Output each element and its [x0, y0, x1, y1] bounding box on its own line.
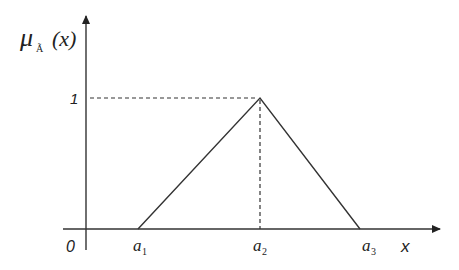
mu-symbol: μ — [19, 23, 33, 52]
x-axis-label: x — [400, 237, 410, 256]
a3-sub: 3 — [371, 246, 376, 257]
point-label-a3: a 3 — [362, 236, 376, 257]
peak-value-label: 1 — [70, 90, 78, 107]
a1-name: a — [133, 236, 142, 255]
triangle-membership-curve — [138, 98, 360, 229]
y-axis-label: μ Ã (x) — [19, 23, 76, 54]
origin-label: 0 — [66, 238, 75, 255]
point-label-a2: a 2 — [253, 236, 267, 257]
a3-name: a — [362, 236, 371, 255]
a1-sub: 1 — [142, 246, 147, 257]
a2-sub: 2 — [262, 246, 267, 257]
mu-argument: (x) — [52, 26, 76, 51]
mu-subscript: Ã — [36, 43, 44, 54]
membership-function-diagram: μ Ã (x) 1 0 x a 1 a 2 a 3 — [0, 0, 459, 270]
point-label-a1: a 1 — [133, 236, 147, 257]
a2-name: a — [253, 236, 262, 255]
